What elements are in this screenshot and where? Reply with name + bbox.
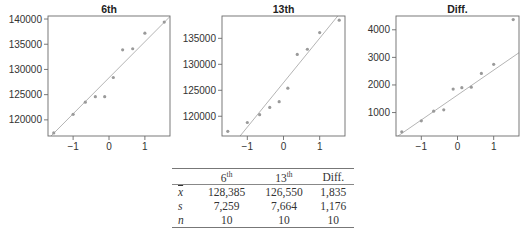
y-tick-label: 125000 bbox=[9, 89, 43, 100]
chart-title: 6th bbox=[101, 3, 117, 15]
cell-sd-diff: 1,176 bbox=[313, 199, 354, 213]
chart-title: Diff. bbox=[447, 3, 467, 15]
y-tick-label: 135000 bbox=[183, 33, 217, 44]
data-point bbox=[278, 100, 281, 103]
qq-plot-diff: Diff.−1011000200030004000 bbox=[368, 3, 519, 152]
reference-line bbox=[48, 17, 170, 140]
data-point bbox=[338, 19, 341, 22]
data-point bbox=[103, 95, 106, 98]
data-point bbox=[296, 53, 299, 56]
data-point bbox=[432, 110, 435, 113]
plot-frame bbox=[396, 16, 519, 136]
header-13th: 13th bbox=[255, 169, 312, 185]
y-tick-label: 130000 bbox=[183, 59, 217, 70]
data-point bbox=[452, 88, 455, 91]
plot-frame bbox=[222, 16, 345, 136]
data-point bbox=[94, 95, 97, 98]
x-tick-label: 1 bbox=[142, 141, 148, 152]
row-label-n: n bbox=[172, 213, 198, 228]
data-point bbox=[306, 48, 309, 51]
x-tick-label: 0 bbox=[455, 141, 461, 152]
x-tick-label: 1 bbox=[317, 141, 323, 152]
x-tick-label: −1 bbox=[242, 141, 254, 152]
y-tick-label: 4000 bbox=[368, 24, 391, 35]
data-point bbox=[492, 63, 495, 66]
data-point bbox=[163, 20, 166, 23]
y-tick-label: 3000 bbox=[368, 52, 391, 63]
cell-n-6th: 10 bbox=[198, 213, 255, 228]
cell-sd-13th: 7,664 bbox=[255, 199, 312, 213]
row-label-mean: x bbox=[172, 185, 198, 200]
data-point bbox=[460, 86, 463, 89]
reference-line bbox=[396, 53, 519, 138]
data-point bbox=[52, 131, 55, 134]
data-point bbox=[480, 72, 483, 75]
data-point bbox=[512, 18, 515, 21]
data-point bbox=[143, 32, 146, 35]
summary-stats-table: 6th 13th Diff. x 128,385 126,550 1,835 s… bbox=[172, 168, 354, 228]
x-tick-label: 0 bbox=[106, 141, 112, 152]
x-tick-label: −1 bbox=[416, 141, 428, 152]
table-header-row: 6th 13th Diff. bbox=[172, 169, 354, 185]
y-tick-label: 130000 bbox=[9, 64, 43, 75]
data-point bbox=[442, 108, 445, 111]
y-tick-label: 120000 bbox=[183, 111, 217, 122]
header-6th: 6th bbox=[198, 169, 255, 185]
y-tick-label: 135000 bbox=[9, 39, 43, 50]
chart-title: 13th bbox=[273, 3, 295, 15]
table-row-n: n 10 10 10 bbox=[172, 213, 354, 228]
y-tick-label: 125000 bbox=[183, 85, 217, 96]
table-row-mean: x 128,385 126,550 1,835 bbox=[172, 185, 354, 200]
cell-n-diff: 10 bbox=[313, 213, 354, 228]
data-point bbox=[84, 101, 87, 104]
x-tick-label: 0 bbox=[281, 141, 287, 152]
data-point bbox=[246, 121, 249, 124]
header-diff: Diff. bbox=[313, 169, 354, 185]
data-point bbox=[72, 113, 75, 116]
row-label-sd: s bbox=[172, 199, 198, 213]
cell-mean-6th: 128,385 bbox=[198, 185, 255, 200]
y-tick-label: 2000 bbox=[368, 79, 391, 90]
data-point bbox=[268, 106, 271, 109]
data-point bbox=[420, 119, 423, 122]
qq-plot-6th: 6th−101120000125000130000135000140000 bbox=[9, 3, 170, 152]
data-point bbox=[131, 47, 134, 50]
cell-mean-diff: 1,835 bbox=[313, 185, 354, 200]
y-tick-label: 120000 bbox=[9, 114, 43, 125]
data-point bbox=[470, 86, 473, 89]
data-point bbox=[226, 130, 229, 133]
qq-plot-13th: 13th−101120000125000130000135000 bbox=[183, 3, 345, 152]
data-point bbox=[400, 130, 403, 133]
plot-frame bbox=[48, 16, 170, 136]
x-tick-label: 1 bbox=[491, 141, 497, 152]
cell-n-13th: 10 bbox=[255, 213, 312, 228]
data-point bbox=[112, 76, 115, 79]
data-point bbox=[258, 113, 261, 116]
cell-mean-13th: 126,550 bbox=[255, 185, 312, 200]
qq-plots: 6th−10112000012500013000013500014000013t… bbox=[0, 0, 528, 160]
y-tick-label: 1000 bbox=[368, 107, 391, 118]
x-tick-label: −1 bbox=[67, 141, 79, 152]
data-point bbox=[121, 48, 124, 51]
data-point bbox=[318, 31, 321, 34]
y-tick-label: 140000 bbox=[9, 14, 43, 25]
reference-line bbox=[240, 16, 338, 136]
cell-sd-6th: 7,259 bbox=[198, 199, 255, 213]
table-row-sd: s 7,259 7,664 1,176 bbox=[172, 199, 354, 213]
data-point bbox=[286, 87, 289, 90]
header-blank bbox=[172, 169, 198, 185]
